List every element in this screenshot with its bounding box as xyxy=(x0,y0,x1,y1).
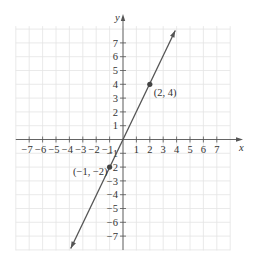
y-tick-label: 7 xyxy=(113,38,118,49)
y-tick-label: 1 xyxy=(113,120,118,131)
x-tick-label: 7 xyxy=(214,144,219,155)
y-axis-arrow-icon xyxy=(121,14,125,21)
x-tick-label: 1 xyxy=(134,144,139,155)
y-tick-label: −5 xyxy=(107,203,118,214)
line-arrow-icon xyxy=(170,30,175,37)
y-tick-label: 5 xyxy=(113,65,118,76)
y-tick-label: −7 xyxy=(107,231,118,242)
y-tick-label: 6 xyxy=(113,51,118,62)
coordinate-plane: x y −7−6−5−4−3−2−11234567 7654321−1−2−3−… xyxy=(0,0,257,260)
point-label: (−1, −2) xyxy=(73,166,108,178)
y-axis-label: y xyxy=(114,12,120,23)
y-tick-label: 2 xyxy=(113,107,118,118)
axes: x y xyxy=(16,12,244,250)
x-tick-label: 6 xyxy=(201,144,206,155)
y-tick-label: 4 xyxy=(113,79,119,90)
x-tick-label: −5 xyxy=(48,144,59,155)
x-tick-label: −3 xyxy=(75,144,86,155)
y-tick-label: −6 xyxy=(107,217,118,228)
y-tick-label: −3 xyxy=(107,176,118,187)
x-tick-label: 2 xyxy=(147,144,152,155)
x-tick-label: −6 xyxy=(35,144,46,155)
y-tick-label: 3 xyxy=(113,93,118,104)
x-tick-label: −7 xyxy=(22,144,33,155)
point-label: (2, 4) xyxy=(154,87,177,99)
y-tick-label: −4 xyxy=(107,189,119,200)
x-tick-label: 3 xyxy=(161,144,166,155)
labeled-points: (2, 4)(−1, −2) xyxy=(73,82,177,178)
x-tick-label: 4 xyxy=(174,144,180,155)
data-point xyxy=(107,165,112,170)
x-axis-label: x xyxy=(238,142,244,153)
x-tick-label: −4 xyxy=(62,144,74,155)
line-arrow-icon xyxy=(71,241,76,248)
x-tick-label: 5 xyxy=(187,144,192,155)
data-point xyxy=(147,82,152,87)
x-tick-label: −2 xyxy=(89,144,100,155)
